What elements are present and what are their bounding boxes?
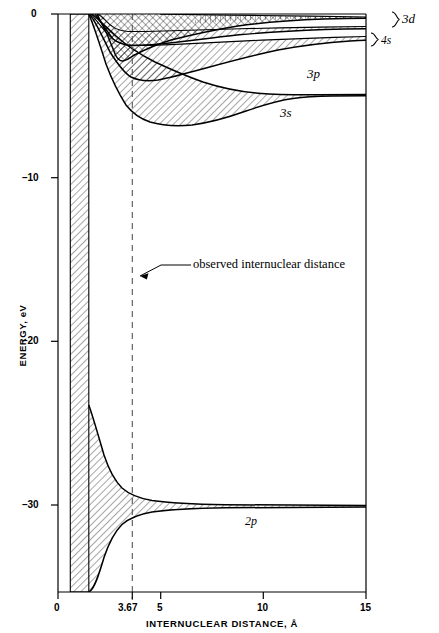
band-label-3d: 3d [402,11,415,27]
plot-svg [0,0,439,633]
x-tick-label-15: 15 [360,602,371,613]
band-2p [89,405,366,592]
y-axis-ticks [51,14,58,505]
energy-band-diagram-figure: 0 –10 –20 –30 ENERGY, eV 0 3.67 5 10 15 … [0,0,439,633]
bracket-3d [392,12,400,27]
x-tick-label-5: 5 [157,602,163,613]
y-tick-label-0: 0 [31,8,37,19]
x-axis-title: INTERNUCLEAR DISTANCE, Å [146,618,298,629]
band-label-3p: 3p [307,66,320,82]
band-label-2p: 2p [245,514,257,529]
observed-distance-annotation: observed internuclear distance [193,257,345,272]
band-label-3s: 3s [280,105,292,121]
core-exclusion-band [70,14,89,592]
y-tick-label-minus10: –10 [22,172,39,183]
y-axis-title: ENERGY, eV [17,296,28,376]
x-tick-label-10: 10 [257,602,268,613]
x-axis-ticks [58,592,366,599]
bracket-4s [371,33,379,46]
band-label-4s: 4s [381,34,391,46]
y-tick-label-minus30: –30 [22,499,39,510]
x-tick-label-3-67: 3.67 [118,602,137,613]
x-tick-label-0: 0 [54,602,60,613]
band-regions [70,14,366,592]
observed-distance-leader [140,265,191,279]
